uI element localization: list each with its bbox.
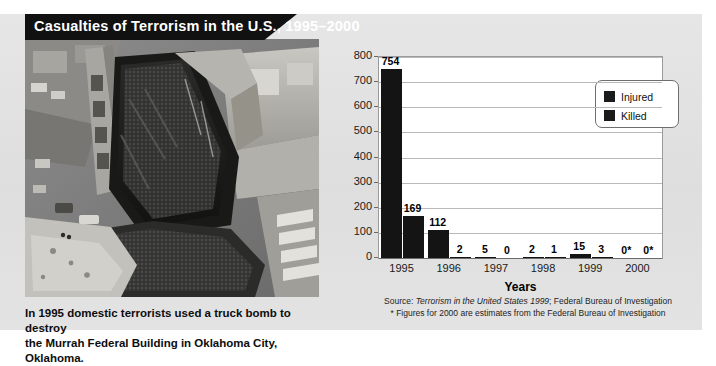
y-axis-tick: 400 (340, 150, 372, 162)
bar-label-1998-killed: 1 (541, 243, 568, 255)
source-line-2: * Figures for 2000 are estimates from th… (378, 308, 678, 320)
bar-label-1997-killed: 0 (493, 244, 520, 256)
y-axis-tick: 0 (340, 250, 372, 262)
source-note: Source: Terrorism in the United States 1… (378, 296, 678, 319)
gridline (379, 107, 662, 108)
y-axis-tick: 100 (340, 225, 372, 237)
legend-label-killed: Killed (621, 110, 647, 122)
bar-label-2000-killed: 0* (635, 244, 662, 256)
gridline (379, 82, 662, 83)
bar-label-1996-injured: 112 (424, 216, 451, 228)
gridline (379, 158, 662, 159)
bar-1995-injured (381, 69, 402, 258)
gridline (379, 57, 662, 58)
y-axis-tick-mark (374, 232, 378, 233)
bar-1997-injured (475, 257, 496, 258)
photo-illustration (25, 39, 319, 297)
y-axis-tick-mark (374, 257, 378, 258)
y-axis-tick: 600 (340, 99, 372, 111)
source-suffix: ; Federal Bureau of Investigation (549, 296, 672, 306)
page-title: Casualties of Terrorism in the U.S., 199… (34, 18, 360, 34)
x-axis-tick-1995: 1995 (378, 262, 425, 274)
bar-1995-killed (403, 216, 424, 258)
legend-item-killed: Killed (604, 107, 678, 124)
gridline (379, 132, 662, 133)
gridline (379, 258, 662, 259)
bar-1998-injured (523, 257, 544, 258)
x-axis-tick-1998: 1998 (520, 262, 567, 274)
legend-item-injured: Injured (604, 88, 678, 105)
x-axis-title: Years (378, 280, 663, 294)
bar-label-1995-injured: 754 (377, 55, 404, 67)
x-axis-tick-1999: 1999 (567, 262, 614, 274)
bar-1996-killed (450, 257, 471, 258)
y-axis-tick: 500 (340, 124, 372, 136)
plot-area: Injured Killed (378, 56, 663, 259)
bar-chart: Injured Killed Years Source: Terrorism i… (340, 44, 685, 334)
chart-legend: Injured Killed (595, 80, 679, 128)
y-axis-tick-mark (374, 131, 378, 132)
y-axis-tick: 300 (340, 175, 372, 187)
y-axis-tick-mark (374, 182, 378, 183)
y-axis-tick: 700 (340, 74, 372, 86)
x-axis-tick-1996: 1996 (425, 262, 472, 274)
y-axis-tick: 200 (340, 200, 372, 212)
legend-label-injured: Injured (621, 91, 653, 103)
bar-label-1995-killed: 169 (399, 202, 426, 214)
gridline (379, 183, 662, 184)
source-prefix: Source: (384, 296, 416, 306)
photo-murrah-building (25, 39, 319, 297)
bar-label-1999-killed: 3 (588, 243, 615, 255)
y-axis-tick-mark (374, 81, 378, 82)
caption-line-1: In 1995 domestic terrorists used a truck… (25, 306, 335, 336)
bar-label-1996-killed: 2 (446, 243, 473, 255)
y-axis-tick-mark (374, 207, 378, 208)
x-axis-tick-1997: 1997 (472, 262, 519, 274)
y-axis-tick-mark (374, 157, 378, 158)
legend-swatch-killed (604, 110, 615, 121)
caption-line-2: the Murrah Federal Building in Oklahoma … (25, 336, 335, 366)
y-axis-tick-mark (374, 106, 378, 107)
bar-1998-killed (545, 257, 566, 258)
y-axis-tick: 800 (340, 49, 372, 61)
bar-1999-killed (592, 257, 613, 258)
legend-swatch-injured (604, 91, 615, 102)
source-title: Terrorism in the United States 1999 (416, 296, 549, 306)
source-line-1: Source: Terrorism in the United States 1… (378, 296, 678, 308)
x-axis-tick-2000: 2000 (614, 262, 661, 274)
photo-caption: In 1995 domestic terrorists used a truck… (25, 306, 335, 366)
